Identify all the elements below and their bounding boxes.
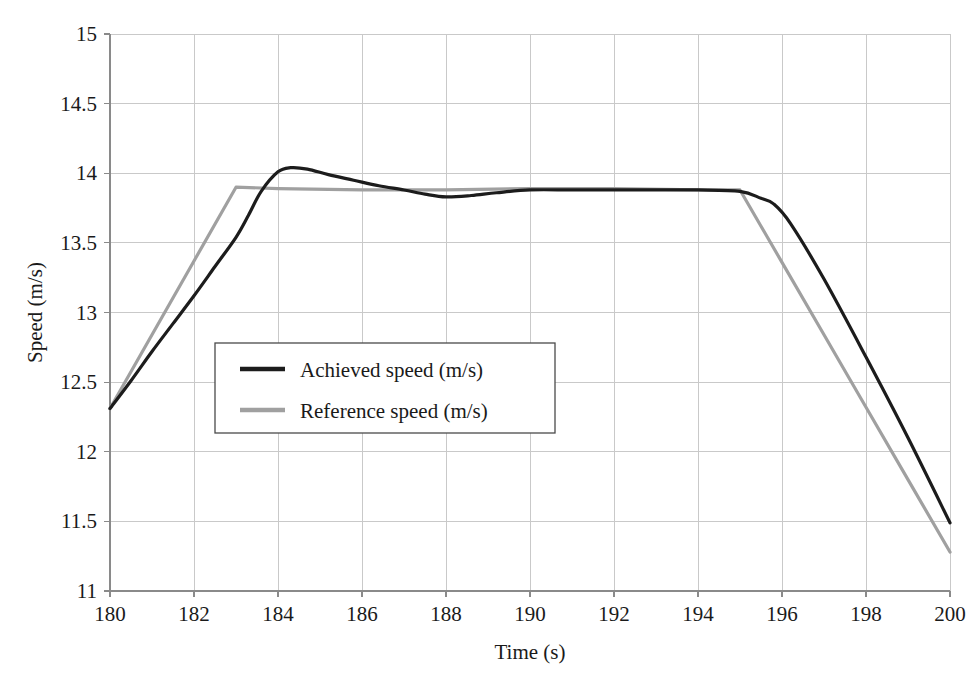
x-tick-label: 190 (514, 602, 546, 626)
x-tick-label: 192 (598, 602, 630, 626)
y-axis-title: Speed (m/s) (23, 262, 47, 363)
x-tick-label: 186 (346, 602, 378, 626)
y-tick-label: 11.5 (61, 509, 97, 533)
y-tick-label: 14.5 (60, 92, 97, 116)
speed-vs-time-chart: 1111.51212.51313.51414.515 1801821841861… (0, 0, 980, 681)
x-axis-title: Time (s) (495, 640, 566, 664)
x-tick-label: 200 (934, 602, 966, 626)
y-axis-tick-labels: 1111.51212.51313.51414.515 (60, 22, 97, 603)
y-tick-label: 13.5 (60, 231, 97, 255)
y-tick-label: 12.5 (60, 370, 97, 394)
chart-canvas: 1111.51212.51313.51414.515 1801821841861… (0, 0, 980, 681)
y-tick-label: 14 (76, 161, 98, 185)
x-axis-tick-labels: 180182184186188190192194196198200 (94, 602, 966, 626)
legend-label: Achieved speed (m/s) (300, 358, 483, 382)
x-tick-label: 188 (430, 602, 462, 626)
x-tick-label: 198 (850, 602, 882, 626)
y-tick-label: 15 (76, 22, 97, 46)
x-tick-label: 182 (178, 602, 210, 626)
x-tick-label: 196 (766, 602, 798, 626)
x-tick-label: 194 (682, 602, 714, 626)
y-tick-label: 12 (76, 440, 97, 464)
legend-label: Reference speed (m/s) (300, 399, 488, 423)
x-tick-label: 184 (262, 602, 294, 626)
x-tick-label: 180 (94, 602, 126, 626)
y-tick-label: 13 (76, 301, 97, 325)
y-tick-label: 11 (77, 579, 97, 603)
tick-marks (104, 34, 950, 597)
chart-legend: Achieved speed (m/s)Reference speed (m/s… (215, 343, 555, 433)
grid-lines (110, 34, 950, 591)
